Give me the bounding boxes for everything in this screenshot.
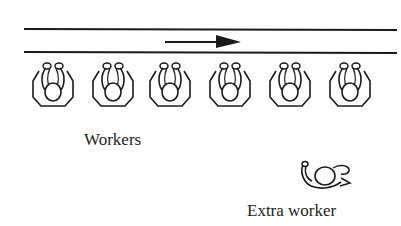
conveyor-bottom-edge bbox=[24, 52, 397, 53]
worker-icon bbox=[330, 63, 370, 106]
worker-icon bbox=[93, 63, 133, 106]
conveyor-top-edge bbox=[24, 29, 397, 30]
diagram-canvas bbox=[0, 0, 401, 226]
flow-arrow-icon bbox=[165, 35, 241, 48]
extra-worker-icon bbox=[302, 162, 350, 189]
workers-label: Workers bbox=[84, 130, 141, 150]
assembly-line-diagram: Workers Extra worker bbox=[0, 0, 401, 226]
worker-icon bbox=[210, 63, 250, 106]
worker-icon bbox=[150, 63, 190, 106]
worker-icon bbox=[270, 63, 310, 106]
extra-worker-label: Extra worker bbox=[247, 201, 336, 221]
worker-icon bbox=[33, 63, 73, 106]
